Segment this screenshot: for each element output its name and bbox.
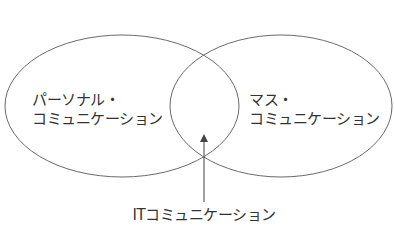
mass-label-line-2: コミュニケーション (249, 110, 380, 129)
personal-communication-label: パーソナル・ コミュニケーション (32, 91, 163, 129)
mass-label-line-1: マス・ (249, 91, 380, 110)
personal-label-line-2: コミュニケーション (32, 110, 163, 129)
it-communication-label: ITコミュニケーション (132, 206, 275, 225)
mass-communication-label: マス・ コミュニケーション (249, 91, 380, 129)
personal-label-line-1: パーソナル・ (32, 91, 163, 110)
